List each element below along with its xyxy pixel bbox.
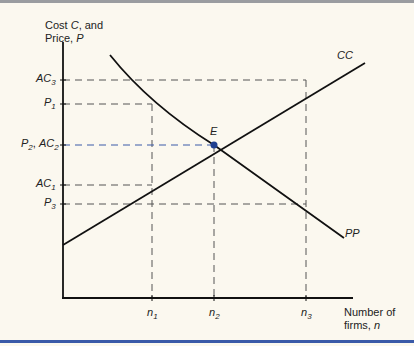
y-label-text: Cost bbox=[45, 19, 71, 31]
x-tick-n2: n2 bbox=[209, 306, 220, 319]
y-tick-ac3: AC3 bbox=[36, 72, 56, 85]
x-label-var-n: n bbox=[374, 319, 380, 331]
pp-curve-label: PP bbox=[345, 227, 360, 240]
x-tick-n1: n1 bbox=[147, 306, 158, 319]
y-label-var-p: P bbox=[76, 32, 83, 44]
y-tick-p1: P1 bbox=[44, 96, 56, 109]
x-label-line2: firms, bbox=[344, 319, 374, 331]
cc-curve-label: CC bbox=[337, 49, 353, 62]
y-tick-p3: P3 bbox=[44, 196, 56, 209]
y-tick-ac1: AC1 bbox=[36, 177, 56, 190]
bottom-rule bbox=[0, 340, 414, 343]
guide-lines bbox=[63, 80, 306, 298]
y-label-text-2: Price, bbox=[45, 32, 76, 44]
y-tick-p2-ac2: P2, AC2 bbox=[21, 137, 59, 150]
equilibrium-point bbox=[211, 142, 218, 149]
axis-ticks bbox=[60, 80, 306, 301]
x-label-line1: Number of bbox=[344, 306, 395, 318]
y-label-suffix: , and bbox=[79, 19, 103, 31]
y-axis-label: Cost C, and Price, P bbox=[45, 19, 103, 45]
equilibrium-label: E bbox=[210, 125, 217, 138]
x-axis-label: Number of firms, n bbox=[344, 306, 395, 332]
y-label-var-c: C bbox=[71, 19, 79, 31]
x-tick-n3: n3 bbox=[301, 306, 312, 319]
